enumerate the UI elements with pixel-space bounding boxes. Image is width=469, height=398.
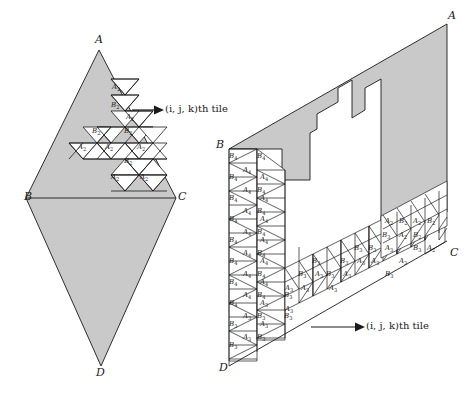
left-tile-label: A2 [78, 143, 86, 152]
right-tile-label: A4 [243, 270, 251, 279]
left-tile-annotation-text: (i, j, k)th tile [165, 103, 228, 114]
left-tile-label: B2 [92, 127, 100, 136]
right-tile-label: B4 [229, 152, 237, 161]
left-tile-label: A2 [105, 143, 113, 152]
right-tile-label: B3 [354, 244, 362, 253]
left-shaded-rhombus [26, 50, 176, 366]
right-tile-label: A3 [343, 270, 351, 279]
right-tile-label: B2 [427, 217, 435, 226]
right-tile-label: A4 [243, 249, 251, 258]
right-tile-label: A3 [260, 299, 268, 308]
right-tile-label: B3 [368, 244, 376, 253]
right-tile-label: A3 [260, 320, 268, 329]
right-tile-label: A3 [243, 333, 251, 342]
right-tile-label: B4 [229, 215, 237, 224]
right-tile-label: B3 [385, 270, 393, 279]
right-tile-label: B3 [284, 312, 292, 321]
right-tile-label: B3 [284, 291, 292, 300]
left-tile-label: A2 [140, 173, 148, 182]
right-tile-label: A2 [399, 231, 407, 240]
right-tile-label: B3 [312, 257, 320, 266]
right-tile-label: A4 [243, 228, 251, 237]
left-corner-label-B: B [24, 190, 32, 203]
right-tile-label: B3 [326, 270, 334, 279]
right-tile-label: A4 [243, 166, 251, 175]
left-corner-label-A: A [95, 33, 103, 46]
right-corner-label-B: B [216, 138, 224, 151]
right-tile-label: A4 [243, 207, 251, 216]
right-tile-label: A3 [315, 270, 323, 279]
right-tile-label: B2 [399, 217, 407, 226]
right-tile-label: A4 [260, 173, 268, 182]
right-tile-label: B3 [413, 244, 421, 253]
right-tile-label: A3 [243, 312, 251, 321]
right-tile-label: A4 [243, 291, 251, 300]
right-tile-label: B4 [229, 257, 237, 266]
right-tile-label: B3 [298, 270, 306, 279]
right-tile-label: A4 [260, 278, 268, 287]
right-tile-label: B3 [340, 257, 348, 266]
right-tile-label: B4 [229, 194, 237, 203]
right-tile-label: B3 [382, 231, 390, 240]
right-tile-label: B3 [257, 333, 265, 342]
left-tile-label: B2 [124, 157, 132, 166]
left-diagram-group [26, 50, 176, 366]
right-tile-label: B4 [229, 299, 237, 308]
right-tile-label: B4 [229, 236, 237, 245]
right-tile-annotation-text: (i, j, k)th tile [366, 320, 429, 331]
right-tile-label: A3 [385, 244, 393, 253]
right-tile-label: A3 [329, 284, 337, 293]
right-tile-label: A3 [399, 257, 407, 266]
right-tile-label: A3 [301, 284, 309, 293]
right-tile-label: A2 [385, 217, 393, 226]
left-tile-label: B2 [124, 127, 132, 136]
right-tile-label: A3 [357, 257, 365, 266]
left-tile-label: A2 [111, 173, 119, 182]
right-corner-label-A: A [448, 9, 456, 22]
left-tile-label: A2 [137, 143, 145, 152]
left-tile-label: A2 [112, 83, 120, 92]
right-tile-label: B3 [229, 320, 237, 329]
left-corner-label-C: C [178, 190, 186, 203]
right-tile-label: A4 [260, 236, 268, 245]
right-tile-label: A4 [260, 257, 268, 266]
tiling-figure: A B C D A B C D (i, j, k)th tile (i, j, … [0, 0, 469, 398]
right-corner-label-D: D [219, 361, 228, 374]
right-corner-label-C: C [450, 246, 458, 259]
left-tile-label: A2 [126, 113, 134, 122]
right-tile-label: A4 [243, 186, 251, 195]
right-tile-label: B4 [229, 278, 237, 287]
right-tile-label: B2 [413, 231, 421, 240]
right-tile-label: B4 [257, 152, 265, 161]
right-tile-label: A3 [371, 257, 379, 266]
right-tile-label: A2 [427, 244, 435, 253]
left-corner-label-D: D [96, 366, 105, 379]
right-annotation-arrow [311, 323, 365, 332]
right-tile-label: A4 [260, 215, 268, 224]
left-tile-label: B2 [111, 101, 119, 110]
right-tile-label: B4 [229, 173, 237, 182]
right-tile-label: B3 [229, 341, 237, 350]
right-tile-label: A2 [413, 217, 421, 226]
right-tile-label: A4 [260, 194, 268, 203]
